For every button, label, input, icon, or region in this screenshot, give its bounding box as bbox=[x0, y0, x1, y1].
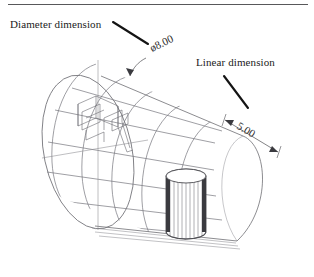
linear-value-text: 5.00 bbox=[235, 119, 258, 139]
internal-slot-pocket bbox=[78, 96, 133, 152]
cad-wireframe-drawing: ø8.00 5.00 bbox=[0, 0, 314, 277]
linear-arrow-right-icon bbox=[269, 146, 278, 152]
cylinder-body bbox=[29, 60, 263, 268]
vertical-drilled-hole bbox=[166, 168, 206, 240]
technical-drawing-figure: Diameter dimension Linear dimension bbox=[0, 0, 314, 277]
right-end-face-hidden bbox=[222, 136, 243, 241]
linear-arrow-left-icon bbox=[225, 120, 234, 126]
diameter-value-text: ø8.00 bbox=[148, 32, 176, 54]
linear-leader-line bbox=[224, 76, 248, 108]
diameter-leader-line bbox=[113, 22, 148, 44]
diameter-arrowhead-icon bbox=[126, 68, 134, 76]
left-end-face bbox=[29, 67, 148, 238]
hole-top-rim bbox=[166, 169, 206, 183]
right-end-face bbox=[237, 136, 263, 241]
diameter-dimension-leader bbox=[130, 58, 146, 76]
